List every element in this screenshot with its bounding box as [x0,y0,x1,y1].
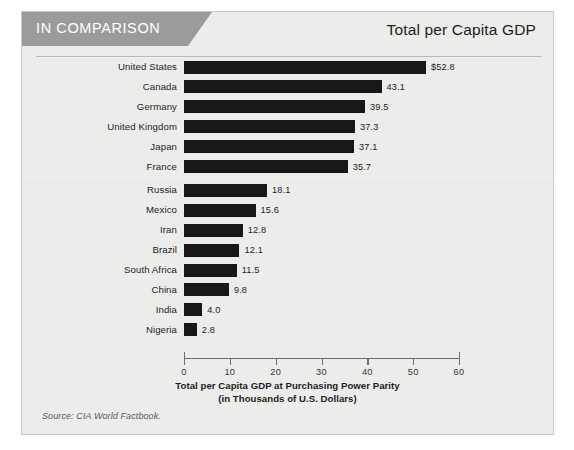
x-axis-tick [230,359,231,365]
x-axis-tick-label: 10 [224,367,235,377]
bar-row: Russia18.1 [22,182,553,202]
x-axis-tick [276,359,277,365]
header-divider [36,56,541,57]
x-axis-title: Total per Capita GDP at Purchasing Power… [22,379,553,405]
bar [184,61,426,74]
bar [184,184,267,197]
x-axis-tick [367,359,368,365]
bar [184,323,197,336]
bar-category-label: Iran [22,224,177,235]
bar-value-label: 15.6 [261,205,279,215]
bar-category-label: United States [22,61,177,72]
bar-value-label: $52.8 [431,62,455,72]
x-axis-tick [413,359,414,365]
bar-category-label: Brazil [22,244,177,255]
bar-row: South Africa11.5 [22,262,553,282]
x-axis-tick-label: 20 [270,367,281,377]
x-axis-tick-label: 0 [181,367,186,377]
x-axis-tick [184,359,185,365]
bar-value-label: 35.7 [353,162,371,172]
bar [184,140,354,153]
bar-category-label: France [22,161,177,172]
bar-row: India4.0 [22,302,553,322]
x-axis-tick [459,359,460,365]
bar-row: Nigeria2.8 [22,322,553,342]
bar-value-label: 12.1 [244,245,262,255]
infographic-card: IN COMPARISON Total per Capita GDP Unite… [21,11,554,435]
bar-row: Brazil12.1 [22,242,553,262]
bar [184,80,382,93]
bar-value-label: 9.8 [234,285,247,295]
bar [184,204,256,217]
x-axis-tick-label: 60 [454,367,465,377]
bar-row: China9.8 [22,282,553,302]
bar-row: United Kingdom37.3 [22,119,553,139]
x-axis-tick [322,359,323,365]
bar [184,303,202,316]
bar [184,100,365,113]
bar-category-label: United Kingdom [22,121,177,132]
bar-row: Iran12.8 [22,222,553,242]
bar [184,224,243,237]
bar-category-label: South Africa [22,264,177,275]
bar-chart-plot-area: United States$52.8Canada43.1Germany39.5U… [22,59,553,369]
bar [184,244,239,257]
bar-value-label: 4.0 [207,305,220,315]
bar-row: United States$52.8 [22,59,553,79]
bar-row: Germany39.5 [22,99,553,119]
bar [184,264,237,277]
group-separator [22,177,553,178]
bar-value-label: 2.8 [202,325,215,335]
bar-category-label: Canada [22,81,177,92]
bar-category-label: Nigeria [22,324,177,335]
bar [184,283,229,296]
bar-row: Japan37.1 [22,139,553,159]
bar-category-label: Mexico [22,204,177,215]
bar [184,120,355,133]
x-axis-left-cap [184,352,185,359]
bar-value-label: 37.3 [360,122,378,132]
x-axis-tick-label: 50 [408,367,419,377]
chart-screenshot: IN COMPARISON Total per Capita GDP Unite… [0,0,574,450]
bar-category-label: China [22,284,177,295]
bar-category-label: Japan [22,141,177,152]
bar [184,160,348,173]
x-axis-tick-label: 30 [316,367,327,377]
bar-row: Canada43.1 [22,79,553,99]
x-axis-title-line-1: Total per Capita GDP at Purchasing Power… [22,379,553,392]
bar-value-label: 39.5 [370,102,388,112]
x-axis-title-line-2: (in Thousands of U.S. Dollars) [22,392,553,405]
bar-category-label: India [22,304,177,315]
bar-category-label: Germany [22,101,177,112]
bar-value-label: 43.1 [387,82,405,92]
page-title: Total per Capita GDP [387,21,536,39]
x-axis-tick-label: 40 [362,367,373,377]
bar-value-label: 37.1 [359,142,377,152]
x-axis-right-cap [459,352,460,359]
bar-value-label: 12.8 [248,225,266,235]
banner-label: IN COMPARISON [36,20,160,36]
bar-row: Mexico15.6 [22,202,553,222]
bar-value-label: 11.5 [242,265,260,275]
source-note: Source: CIA World Factbook. [42,411,161,421]
bar-category-label: Russia [22,184,177,195]
bar-value-label: 18.1 [272,185,290,195]
